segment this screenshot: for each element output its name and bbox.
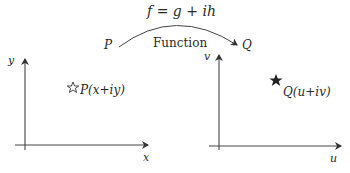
- star-outline-icon: [67, 82, 78, 92]
- z-point-label: P(x+iy): [80, 83, 125, 97]
- star-filled-icon: [269, 74, 282, 86]
- z-plane-y-label: y: [8, 54, 14, 67]
- w-plane-u-label: u: [330, 152, 337, 165]
- mapping-label: Function: [153, 36, 207, 50]
- z-plane-x-label: x: [143, 151, 149, 164]
- target-point-label: Q: [242, 38, 252, 52]
- w-plane-v-label: v: [204, 50, 210, 63]
- w-point-label: Q(u+iv): [283, 85, 331, 99]
- mapping-formula: f = g + ih: [147, 3, 216, 19]
- source-point-label: P: [104, 38, 112, 52]
